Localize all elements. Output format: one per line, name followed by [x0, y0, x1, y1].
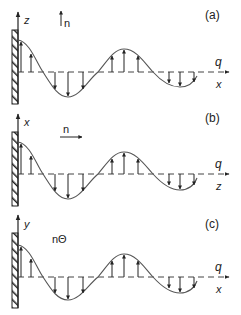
wave-label: q — [215, 157, 222, 171]
panel-label: (b) — [205, 111, 220, 125]
panel-a: z n (a) q x — [12, 8, 229, 104]
wave-label: q — [215, 260, 222, 274]
wall — [12, 233, 18, 308]
panel-c: y nΘ (c) q x — [12, 215, 229, 308]
panel-label: (a) — [205, 8, 220, 22]
horizontal-axis-label: x — [215, 283, 222, 295]
wave-label: q — [215, 55, 222, 69]
vertical-axis-label: y — [23, 218, 31, 230]
wave-curve — [18, 245, 197, 300]
horizontal-axis-label: x — [215, 78, 222, 90]
panel-label: (c) — [205, 217, 219, 231]
displacement-arrows — [21, 42, 194, 96]
vertical-axis-label: z — [23, 14, 30, 26]
wall — [12, 132, 18, 206]
wave-curve — [18, 142, 197, 199]
wall — [12, 30, 18, 104]
vertical-axis-label: x — [23, 116, 30, 128]
horizontal-axis-label: z — [215, 180, 222, 192]
diagram-canvas: z n (a) q x x n (b) q z — [0, 0, 241, 315]
displacement-arrows — [21, 144, 194, 198]
direction-label: nΘ — [52, 233, 67, 245]
direction-label: n — [63, 123, 69, 135]
panel-b: x n (b) q z — [12, 111, 229, 206]
wave-curve — [18, 40, 197, 97]
displacement-arrows — [21, 247, 194, 299]
direction-label: n — [64, 17, 70, 29]
